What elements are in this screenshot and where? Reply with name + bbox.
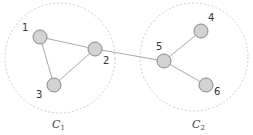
cluster-label-2: C2 [192, 118, 205, 132]
cluster-label-1: C1 [52, 118, 65, 132]
cluster-c2-boundary [140, 3, 248, 111]
node-1 [33, 30, 47, 44]
node-label-2: 2 [103, 55, 109, 66]
node-2 [88, 42, 102, 56]
graph-diagram: 123456C1C2 [0, 0, 253, 135]
edge-1-2 [40, 37, 95, 49]
node-label-3: 3 [36, 89, 42, 100]
node-label-5: 5 [156, 41, 162, 52]
node-label-1: 1 [22, 22, 28, 33]
edge-2-3 [54, 49, 95, 85]
node-3 [47, 78, 61, 92]
cluster-c1-boundary [5, 3, 115, 113]
node-5 [157, 54, 171, 68]
node-label-4: 4 [208, 12, 214, 23]
node-6 [199, 78, 213, 92]
node-label-6: 6 [214, 86, 220, 97]
node-4 [194, 24, 208, 38]
